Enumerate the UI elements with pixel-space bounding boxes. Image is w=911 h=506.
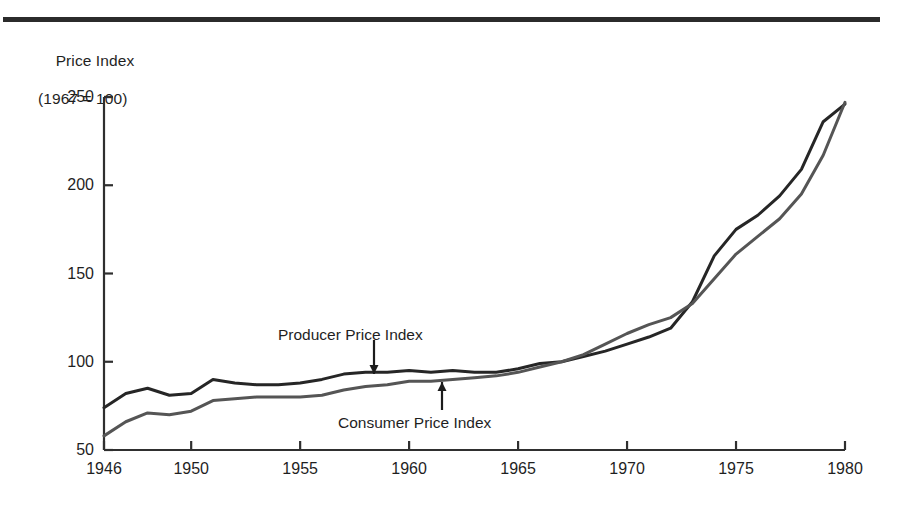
- chart-axes: [104, 97, 845, 450]
- x-tick-label: 1965: [488, 461, 548, 477]
- y-tick-label: 250: [48, 89, 94, 105]
- producer-price-index-label: Producer Price Index: [278, 327, 423, 343]
- y-tick-label: 200: [48, 177, 94, 193]
- y-tick-label: 100: [48, 354, 94, 370]
- x-tick-label: 1960: [379, 461, 439, 477]
- chart-series-group: [104, 102, 845, 436]
- consumer-price-index-line: [104, 102, 845, 436]
- x-tick-label: 1970: [597, 461, 657, 477]
- consumer-price-index-label: Consumer Price Index: [338, 415, 491, 431]
- x-tick-label: 1955: [270, 461, 330, 477]
- x-tick-label: 1950: [161, 461, 221, 477]
- price-index-figure: Price Index (1967 = 100) 50100150200250 …: [0, 0, 911, 506]
- x-tick-label: 1975: [706, 461, 766, 477]
- x-tick-label: 1946: [74, 461, 134, 477]
- x-tick-label: 1980: [815, 461, 875, 477]
- chart-annotation-arrows: [370, 340, 447, 410]
- annotation-arrow-head: [438, 382, 447, 391]
- y-tick-label: 50: [48, 442, 94, 458]
- y-tick-label: 150: [48, 266, 94, 282]
